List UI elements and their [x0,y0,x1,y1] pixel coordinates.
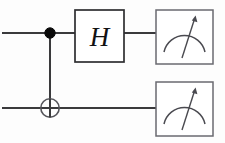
measurement-meter-bottom[interactable] [156,82,213,136]
measurement-meter-top[interactable] [156,10,213,64]
meter-bottom-box[interactable] [156,82,213,136]
meter-top-box[interactable] [156,10,213,64]
cnot-control-dot[interactable] [45,28,55,38]
circuit-canvas: H [0,0,225,143]
quantum-circuit-diagram: H [0,0,225,143]
hadamard-gate-label: H [89,22,111,52]
